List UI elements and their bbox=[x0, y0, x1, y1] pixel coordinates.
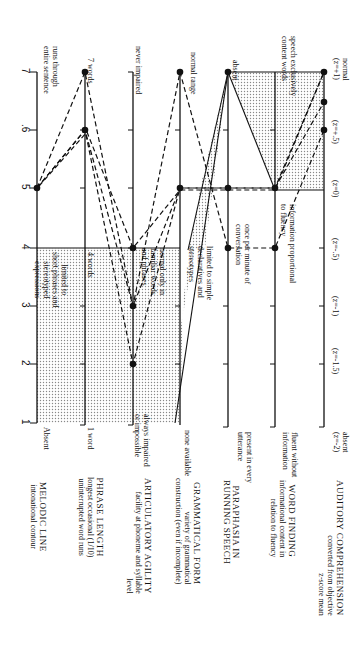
row-label-auditory-comprehension: AUDITORY COMPREHENSIONconverted from obj… bbox=[317, 480, 344, 616]
anno-aud-3: (z=-1) bbox=[331, 296, 340, 316]
anno-word-7: speech exclusivelycontent words bbox=[280, 36, 298, 96]
anno-artic-7: never impaired bbox=[134, 46, 143, 94]
anno-para-7: absent bbox=[231, 60, 240, 80]
anno-artic-4: normal only infamiliar wordsand phrases bbox=[140, 248, 167, 295]
anno-melodic-4: limited toshort phrases andstereotypedex… bbox=[33, 252, 69, 308]
anno-gram-4: limited to simpledeclaratives andstereot… bbox=[187, 246, 214, 300]
row-label-grammatical-form: GRAMMATICAL FORMvariety of grammaticalco… bbox=[174, 478, 201, 584]
anno-aud-7: normal(z=+1) bbox=[332, 58, 350, 81]
anno-phrase-4: 4 words bbox=[86, 252, 95, 278]
tick-label-4: 4 bbox=[20, 244, 31, 250]
tick-label-1: 1 bbox=[20, 419, 31, 425]
row-label-articulatory-agility: ARTICULATORY AGILITYfacility at phoneme … bbox=[125, 478, 152, 594]
anno-gram-7: normal range bbox=[189, 52, 198, 94]
anno-aud-4: (z=-.5) bbox=[331, 238, 340, 260]
tick-label-5: 5 bbox=[20, 184, 31, 190]
anno-aud-1: absent(z=-2) bbox=[332, 432, 350, 452]
anno-aud-6: (z=+.5) bbox=[331, 120, 340, 144]
anno-word-1: fluent withoutinformation bbox=[281, 432, 299, 477]
anno-para-4: once per minute ofconversation bbox=[234, 224, 252, 284]
tick-label-7: 7 bbox=[20, 68, 31, 74]
anno-aud-5: (z=0) bbox=[331, 180, 340, 197]
tick-label-6: .6 bbox=[20, 124, 31, 132]
anno-phrase-7: 7 words bbox=[86, 58, 95, 84]
row-label-word-finding: WORD FINDINGinformational content inrela… bbox=[269, 480, 296, 557]
anno-gram-1: none available bbox=[183, 430, 192, 476]
tick-label-3: 3 bbox=[20, 302, 31, 308]
row-label-melodic-line: MELODIC LINEintonational contour bbox=[29, 482, 47, 552]
shaded-region-right bbox=[228, 72, 324, 190]
row-label-phrase-length: PHRASE LENGTHlongest occasional (1/10)un… bbox=[77, 477, 104, 557]
anno-word-4: information proportionalto fluency bbox=[279, 204, 297, 283]
anno-melodic-7: runs throughentire sentence bbox=[42, 46, 60, 94]
anno-melodic-1: Absent bbox=[42, 427, 51, 450]
row-label-paraphasia: PARAPHASIA INRUNNING SPEECH bbox=[222, 480, 240, 564]
anno-para-1: present in everyutterance bbox=[236, 432, 254, 483]
anno-artic-1: always impairedor impossible bbox=[133, 414, 151, 467]
anno-aud-2: (z=-1.5) bbox=[331, 348, 340, 374]
tick-label-2: 2 bbox=[20, 360, 31, 366]
anno-phrase-1: 1 word bbox=[86, 427, 95, 449]
